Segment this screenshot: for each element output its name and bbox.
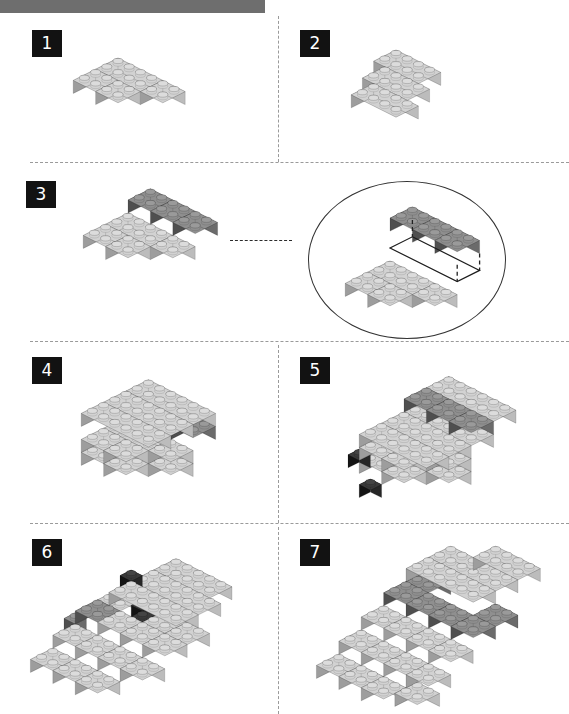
brick-faces xyxy=(0,345,278,523)
placement-guides xyxy=(278,165,569,341)
brick-faces xyxy=(0,165,278,341)
step-5: 5 xyxy=(278,345,569,523)
step-7-illustration xyxy=(278,527,569,714)
step-6-illustration xyxy=(0,527,278,714)
callout-illustration xyxy=(278,165,569,341)
step-4-illustration xyxy=(0,345,278,523)
brick-faces xyxy=(278,345,569,523)
brick-faces xyxy=(278,16,569,162)
step-3: 3 xyxy=(0,165,278,341)
step-1-illustration xyxy=(0,16,278,162)
step-3-illustration xyxy=(0,165,278,341)
step-6: 6 xyxy=(0,527,278,714)
step-7: 7 xyxy=(278,527,569,714)
step-2: 2 xyxy=(278,16,569,162)
step-1: 1 xyxy=(0,16,278,162)
row-separator-2 xyxy=(30,341,569,342)
step-5-illustration xyxy=(278,345,569,523)
step-3-callout-area xyxy=(278,165,569,341)
header-bar xyxy=(0,0,265,13)
step-2-illustration xyxy=(278,16,569,162)
brick-faces xyxy=(0,527,278,714)
row-separator-3 xyxy=(30,523,569,524)
brick-faces xyxy=(278,527,569,714)
brick-faces xyxy=(0,16,278,162)
step-4: 4 xyxy=(0,345,278,523)
row-separator-1 xyxy=(30,162,569,163)
